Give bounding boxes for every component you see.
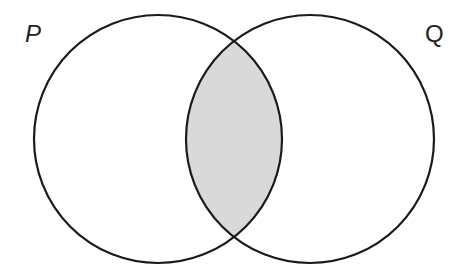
intersection-shading — [186, 15, 434, 263]
venn-diagram — [0, 0, 465, 279]
set-q-label: Q — [425, 20, 444, 48]
set-p-label: P — [25, 20, 41, 48]
